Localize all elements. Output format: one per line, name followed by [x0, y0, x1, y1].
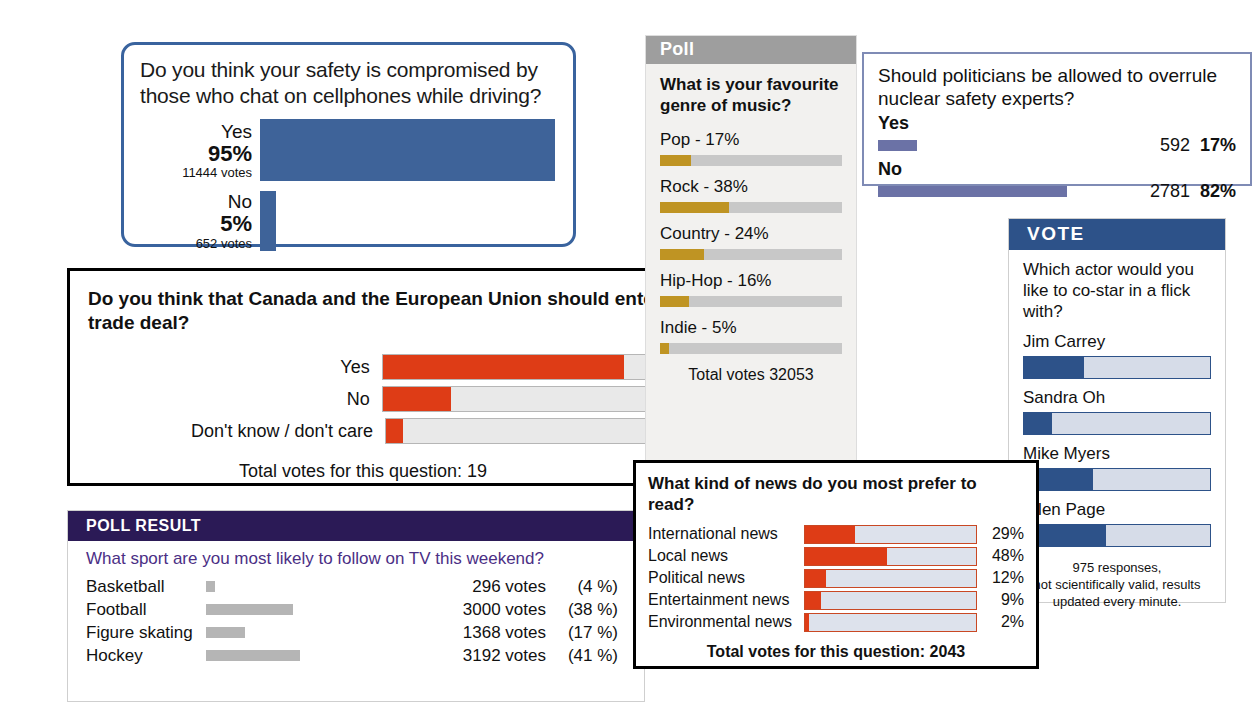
option-percent: (17 %): [546, 623, 618, 643]
option-label: Basketball: [86, 577, 206, 597]
option-votes: 2781: [1150, 181, 1190, 201]
option-track: [660, 296, 842, 307]
option-track: [206, 627, 436, 638]
option-label: Ellen Page: [1023, 500, 1211, 520]
option-votes: 1368 votes: [436, 623, 546, 643]
option-bar: [1024, 413, 1052, 434]
poll-option-row: Yes 592 17%: [878, 114, 1236, 156]
option-label: Figure skating: [86, 623, 206, 643]
option-percent: 2%: [977, 613, 1024, 631]
option-label: Football: [86, 600, 206, 620]
poll-option-row[interactable]: Mike Myers: [1023, 444, 1211, 491]
option-votes: 3000 votes: [436, 600, 546, 620]
option-label: No: [140, 191, 252, 212]
option-bar: [206, 581, 215, 592]
option-label: No: [88, 389, 382, 410]
option-label: Sandra Oh: [1023, 388, 1211, 408]
poll-card-actor-vote: VOTE Which actor would you like to co-st…: [1008, 218, 1226, 603]
option-stats: 2781 82%: [1150, 181, 1236, 202]
option-track: [206, 581, 436, 592]
poll-option-row: Indie - 5%: [660, 318, 842, 354]
card-body: What is your favourite genre of music? P…: [646, 64, 856, 384]
option-votes: 652 votes: [140, 237, 252, 252]
option-track: [660, 155, 842, 166]
poll-question: What kind of news do you most prefer to …: [648, 473, 1024, 515]
option-percent: 9%: [977, 591, 1024, 609]
option-bar: [805, 614, 808, 631]
poll-option-labels: No 5% 652 votes: [140, 191, 260, 251]
option-bar: [386, 419, 403, 443]
poll-option-row: Rock - 38%: [660, 177, 842, 213]
option-percent: 29%: [977, 525, 1024, 543]
option-percent: 12%: [977, 569, 1024, 587]
option-bar: [805, 548, 887, 565]
option-bar: [805, 592, 820, 609]
poll-card-news-preference: What kind of news do you most prefer to …: [633, 460, 1039, 669]
option-label: Yes: [88, 357, 382, 378]
option-label: No: [878, 160, 1236, 179]
option-votes: 11444 votes: [140, 166, 252, 181]
poll-options-list: International news 29% Local news 48% Po…: [648, 523, 1024, 633]
poll-option-row: Country - 24%: [660, 224, 842, 260]
option-label: Indie - 5%: [660, 318, 842, 338]
option-bar: [383, 355, 624, 379]
disclaimer-note: 975 responses, not scientifically valid,…: [1023, 559, 1211, 610]
option-percent: 95%: [140, 142, 252, 167]
option-track: [804, 569, 977, 588]
table-row: Figure skating 1368 votes (17 %): [68, 621, 644, 644]
poll-question: Should politicians be allowed to overrul…: [878, 64, 1236, 110]
option-bar: [878, 186, 1067, 197]
option-bar: [206, 627, 245, 638]
option-label: Don't know / don't care: [88, 421, 385, 442]
option-track: [206, 650, 436, 661]
option-bar-line: 2781 82%: [878, 181, 1236, 202]
option-label: Local news: [648, 547, 804, 565]
option-percent: (41 %): [546, 646, 618, 666]
poll-option-row: Entertainment news 9%: [648, 589, 1024, 611]
card-header-title: VOTE: [1009, 219, 1225, 250]
poll-question: Do you think your safety is compromised …: [140, 57, 557, 109]
table-row: Football 3000 votes (38 %): [68, 598, 644, 621]
poll-option-row: Environmental news 2%: [648, 611, 1024, 633]
option-track: [804, 547, 977, 566]
option-bar: [206, 650, 300, 661]
option-track: [804, 591, 977, 610]
option-bar: [660, 155, 691, 166]
table-row: Hockey 3192 votes (41 %): [68, 644, 644, 667]
option-bar: [660, 202, 729, 213]
option-label: Rock - 38%: [660, 177, 842, 197]
option-bar: [260, 191, 276, 251]
poll-card-nuclear-safety: Should politicians be allowed to overrul…: [862, 52, 1252, 186]
option-label: Entertainment news: [648, 591, 804, 609]
option-label: Country - 24%: [660, 224, 842, 244]
option-track: [206, 604, 436, 615]
poll-option-row[interactable]: Jim Carrey: [1023, 332, 1211, 379]
option-percent: 17%: [1200, 135, 1236, 155]
option-track: [660, 202, 842, 213]
option-label: Yes: [878, 114, 1236, 133]
poll-option-row[interactable]: Sandra Oh: [1023, 388, 1211, 435]
option-label: Jim Carrey: [1023, 332, 1211, 352]
option-bar: [805, 526, 855, 543]
option-label: Mike Myers: [1023, 444, 1211, 464]
total-votes-label: Total votes 32053: [660, 366, 842, 384]
poll-option-row: Pop - 17%: [660, 130, 842, 166]
option-label: Hockey: [86, 646, 206, 666]
option-bar: [383, 387, 452, 411]
option-bar: [1024, 357, 1084, 378]
option-track: [660, 249, 842, 260]
option-votes: 592: [1160, 135, 1190, 155]
poll-question: Which actor would you like to co-star in…: [1023, 259, 1211, 322]
poll-option-row: No 5% 652 votes: [140, 191, 557, 251]
option-bar: [206, 604, 293, 615]
option-percent: (38 %): [546, 600, 618, 620]
card-body: Which actor would you like to co-star in…: [1009, 250, 1225, 610]
poll-option-row[interactable]: Ellen Page: [1023, 500, 1211, 547]
option-bar: [260, 119, 555, 181]
option-votes: 3192 votes: [436, 646, 546, 666]
option-bar: [660, 343, 669, 354]
poll-card-music-genre: Poll What is your favourite genre of mus…: [645, 35, 857, 467]
option-percent: 5%: [140, 212, 252, 237]
option-track: [804, 525, 977, 544]
poll-option-row: Political news 12%: [648, 567, 1024, 589]
